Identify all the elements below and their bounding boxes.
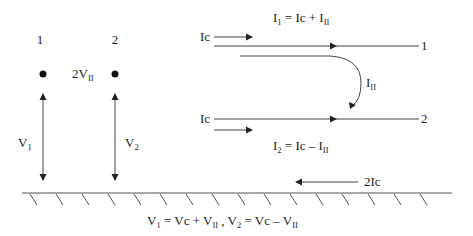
i1-equation: I1 = Ic + III <box>273 10 330 27</box>
node-label-1: 1 <box>37 32 44 47</box>
hatch-mark <box>186 194 193 205</box>
hatch-mark <box>56 194 63 205</box>
hatch-mark <box>264 194 271 205</box>
hatch-mark <box>394 194 401 205</box>
hatch-mark <box>290 194 297 205</box>
hatch-mark <box>160 194 167 205</box>
voltage-equation: V1 = Vc + VII , V2 = Vc – VII <box>147 213 298 230</box>
ic-bottom-label: Ic <box>200 111 210 126</box>
conductor-1-label: 1 <box>421 38 428 53</box>
iii-label: III <box>366 75 376 92</box>
diff-voltage-label: 2VII <box>72 66 94 83</box>
iii-curve-arrow <box>240 56 361 106</box>
node-label-2: 2 <box>112 32 119 47</box>
ic-bottom-arrow-head <box>246 127 253 134</box>
ground-current-arrow-head <box>295 179 302 186</box>
ground-hatching <box>30 194 427 205</box>
i2-equation: I2 = Ic – III <box>273 138 329 155</box>
ic-top-arrow-head <box>246 34 253 41</box>
hatch-mark <box>82 194 89 205</box>
conductor-2-arrow-head <box>330 116 337 123</box>
node-dot-1 <box>40 71 47 78</box>
hatch-mark <box>238 194 245 205</box>
hatch-mark <box>316 194 323 205</box>
v1-arrow-down-head <box>40 174 47 181</box>
diagram-canvas: 1 2 2VII V1 V2 I1 = Ic + III Ic 1 III Ic… <box>0 0 473 236</box>
v2-label: V2 <box>125 135 139 152</box>
hatch-mark <box>342 194 349 205</box>
v1-label: V1 <box>18 135 32 152</box>
v1-arrow-up-head <box>40 93 47 100</box>
hatch-mark <box>212 194 219 205</box>
hatch-mark <box>134 194 141 205</box>
ground-current-label: 2Ic <box>364 174 381 189</box>
conductor-2-label: 2 <box>421 111 428 126</box>
node-dot-2 <box>112 71 119 78</box>
hatch-mark <box>420 194 427 205</box>
hatch-mark <box>30 194 37 205</box>
hatch-mark <box>108 194 115 205</box>
conductor-1-arrow-head <box>330 43 337 50</box>
hatch-mark <box>368 194 375 205</box>
v2-arrow-down-head <box>112 174 119 181</box>
ic-top-label: Ic <box>200 29 210 44</box>
v2-arrow-up-head <box>112 93 119 100</box>
